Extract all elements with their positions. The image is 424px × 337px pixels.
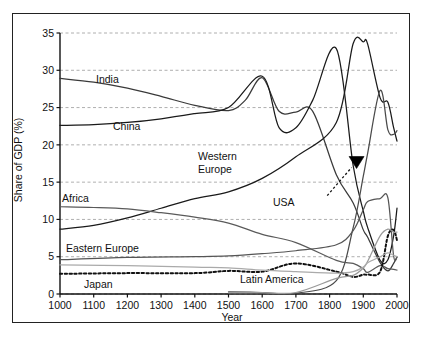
x-tick-label: 1500 xyxy=(217,299,241,311)
figure-container: 0510152025303510001100120013001400150016… xyxy=(0,0,424,337)
y-tick-label: 5 xyxy=(48,250,54,262)
series-label-africa: Africa xyxy=(62,192,89,204)
series-line-western-europe xyxy=(60,37,397,229)
y-axis-title: Share of GDP (%) xyxy=(12,118,24,202)
usa-pointer-arrowhead xyxy=(349,157,364,169)
series-label-japan: Japan xyxy=(84,278,113,290)
x-tick-label: 1700 xyxy=(284,299,308,311)
x-tick-label: 1300 xyxy=(149,299,173,311)
x-tick-label: 1000 xyxy=(48,299,72,311)
x-tick-label: 1400 xyxy=(183,299,207,311)
x-tick-label: 1100 xyxy=(82,299,105,311)
x-axis-title: Year xyxy=(221,311,243,323)
y-tick-label: 15 xyxy=(42,176,54,188)
series-line-usa xyxy=(229,90,398,294)
x-tick-label: 1900 xyxy=(352,299,376,311)
series-label-western-europe-line1: Western xyxy=(198,150,237,162)
y-tick-label: 0 xyxy=(48,288,54,300)
annotations-group xyxy=(327,157,364,196)
series-label-western-europe-line2: Europe xyxy=(198,163,232,175)
x-tick-label: 1600 xyxy=(251,299,275,311)
series-label-india: India xyxy=(96,73,119,85)
y-tick-label: 20 xyxy=(42,139,54,151)
series-label-usa: USA xyxy=(273,196,295,208)
x-tick-label: 1800 xyxy=(318,299,342,311)
y-tick-label: 30 xyxy=(42,64,54,76)
y-tick-label: 25 xyxy=(42,101,54,113)
series-label-eastern-europe: Eastern Europe xyxy=(66,242,139,254)
y-tick-label: 10 xyxy=(42,213,54,225)
series-label-china: China xyxy=(113,120,141,132)
series-label-latin-america: Latin America xyxy=(240,273,304,285)
y-tick-label: 35 xyxy=(42,27,54,39)
x-tick-label: 1200 xyxy=(116,299,140,311)
usa-pointer-line xyxy=(327,168,351,196)
line-chart: 0510152025303510001100120013001400150016… xyxy=(0,0,424,337)
x-tick-label: 2000 xyxy=(385,299,409,311)
